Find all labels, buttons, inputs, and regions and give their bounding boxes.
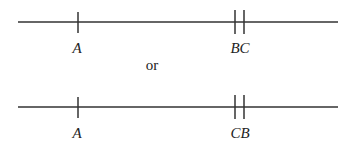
line-2 <box>18 95 338 119</box>
line-1-label-a: A <box>72 40 81 57</box>
line-2-label-a: A <box>72 125 81 142</box>
line-2-label-cb: CB <box>230 125 249 142</box>
connector-or: or <box>146 57 159 74</box>
line-1-label-bc: BC <box>230 40 249 57</box>
number-lines <box>0 0 354 147</box>
line-1 <box>18 10 338 34</box>
